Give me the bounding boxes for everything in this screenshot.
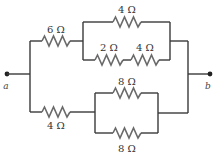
label-8ohm-lower: 8 Ω [118,144,136,154]
label-4ohm-upper: 4 Ω [118,5,136,15]
resistor-2ohm [95,55,123,65]
resistor-8ohm-lower [113,128,141,138]
terminal-b-dot [208,72,213,77]
label-8ohm-upper: 8 Ω [118,77,136,87]
label-4ohm-bottom: 4 Ω [47,121,65,131]
resistor-4ohm-bottom [42,107,70,117]
node-b-label: b [205,81,211,91]
label-6ohm: 6 Ω [47,25,65,35]
resistor-8ohm-upper [113,88,141,98]
circuit-diagram: 6 Ω 4 Ω 2 Ω 4 Ω 4 Ω 8 Ω 8 Ω a b [0,0,218,158]
label-4ohm-lower: 4 Ω [136,43,154,53]
resistor-4ohm-upper [113,17,141,27]
resistor-6ohm [42,36,70,46]
label-2ohm: 2 Ω [100,43,118,53]
node-a-label: a [3,81,8,91]
circuit-wires [0,0,218,158]
resistor-4ohm-lower [131,55,159,65]
